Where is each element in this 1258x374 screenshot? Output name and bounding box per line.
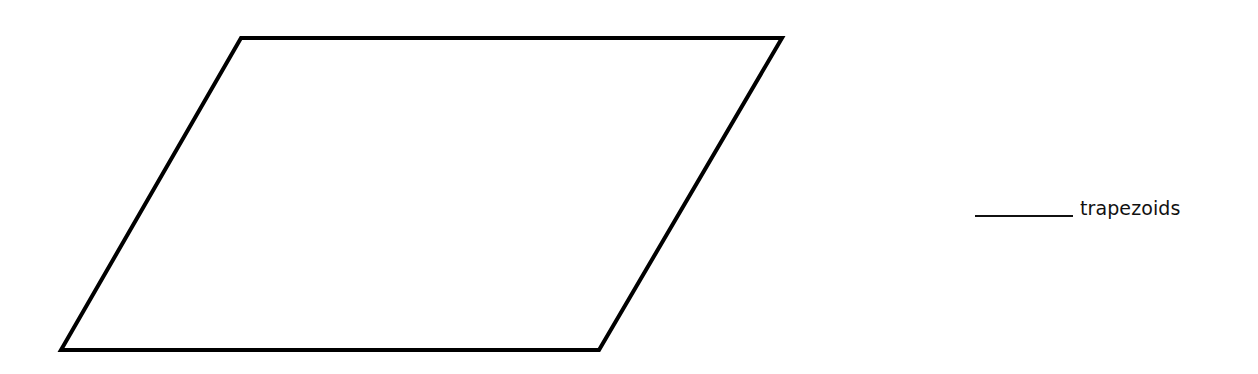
answer-label: trapezoids — [1080, 193, 1181, 223]
parallelogram-figure — [0, 0, 1258, 374]
worksheet-canvas: trapezoids — [0, 0, 1258, 374]
answer-blank-line[interactable] — [975, 215, 1073, 217]
answer-row: trapezoids — [975, 193, 1181, 223]
parallelogram-outline — [61, 38, 782, 350]
